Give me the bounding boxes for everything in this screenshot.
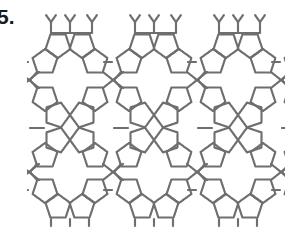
bond-line — [282, 172, 285, 180]
pentagon-ring — [154, 35, 179, 59]
pentagon-ring — [0, 180, 23, 204]
bond-line — [255, 15, 260, 22]
bond-line — [19, 72, 29, 80]
bond-line — [130, 15, 135, 22]
pentagon-ring — [70, 194, 95, 218]
bond-line — [65, 15, 70, 22]
pentagon-ring — [154, 128, 178, 153]
bond-line — [19, 172, 29, 180]
bond-line — [8, 15, 13, 22]
pentagon-ring — [154, 194, 179, 218]
bond-line — [30, 164, 37, 172]
pentagon-ring — [215, 128, 239, 153]
pentagon-ring — [167, 49, 192, 73]
pentagon-ring — [46, 35, 71, 59]
pentagon-ring — [131, 103, 155, 128]
bond-line — [30, 172, 37, 180]
bond-line — [154, 15, 159, 22]
pentagon-ring — [131, 128, 155, 153]
pentagon-ring — [201, 180, 226, 204]
pentagon-ring — [130, 35, 155, 59]
bond-line — [198, 80, 205, 88]
bond-line — [114, 164, 121, 172]
bond-line — [187, 72, 197, 80]
pentagon-ring — [0, 128, 10, 153]
pentagon-ring — [70, 35, 95, 59]
pentagon-ring — [117, 143, 142, 167]
pentagon-ring — [46, 194, 71, 218]
pentagon-ring — [33, 180, 58, 204]
pentagon-ring — [83, 88, 108, 112]
bond-line — [103, 80, 113, 88]
lattice-bonds — [0, 15, 285, 226]
bond-line — [214, 15, 219, 22]
bond-line — [198, 164, 205, 172]
pentagon-ring — [33, 49, 58, 73]
pentagon-ring — [83, 180, 108, 204]
bond-line — [114, 172, 121, 180]
pentagon-ring — [251, 88, 276, 112]
bond-line — [70, 15, 75, 22]
bond-line — [282, 72, 285, 80]
pentagon-ring — [251, 49, 276, 73]
pentagon-ring — [130, 194, 155, 218]
pentagon-ring — [47, 103, 71, 128]
pentagon-ring — [238, 103, 262, 128]
pentagon-ring — [83, 49, 108, 73]
bond-line — [135, 15, 140, 22]
bond-line — [233, 15, 238, 22]
pentagon-ring — [0, 194, 10, 218]
pentagon-ring — [117, 180, 142, 204]
bond-line — [19, 164, 29, 172]
pentagon-ring — [83, 143, 108, 167]
pentagon-ring — [117, 88, 142, 112]
bond-line — [92, 15, 97, 22]
pentagon-ring — [0, 35, 10, 59]
bond-line — [30, 72, 37, 80]
bond-line — [46, 15, 51, 22]
bond-line — [103, 164, 113, 172]
pentagon-ring — [117, 49, 142, 73]
pentagon-ring — [201, 143, 226, 167]
pentagon-ring — [154, 103, 178, 128]
bond-line — [187, 172, 197, 180]
bond-line — [260, 15, 265, 22]
bond-line — [187, 80, 197, 88]
bond-line — [3, 15, 8, 22]
pentagon-ring — [214, 194, 239, 218]
bond-line — [198, 72, 205, 80]
pentagon-lattice-diagram — [0, 0, 285, 228]
pentagon-ring — [0, 143, 23, 167]
pentagon-ring — [167, 143, 192, 167]
bond-line — [271, 164, 281, 172]
pentagon-ring — [238, 35, 263, 59]
pentagon-ring — [47, 128, 71, 153]
pentagon-ring — [215, 103, 239, 128]
bond-line — [271, 72, 281, 80]
pentagon-ring — [33, 88, 58, 112]
pentagon-ring — [201, 88, 226, 112]
pentagon-ring — [251, 143, 276, 167]
pentagon-ring — [0, 103, 10, 128]
bond-line — [176, 15, 181, 22]
bond-line — [171, 15, 176, 22]
pentagon-ring — [70, 128, 94, 153]
bond-line — [103, 72, 113, 80]
bond-line — [219, 15, 224, 22]
figure-canvas: 5. — [0, 0, 285, 228]
bond-line — [271, 80, 281, 88]
bond-line — [114, 72, 121, 80]
bond-line — [282, 80, 285, 88]
bond-line — [198, 172, 205, 180]
pentagon-ring — [33, 143, 58, 167]
pentagon-ring — [238, 194, 263, 218]
bond-line — [149, 15, 154, 22]
pentagon-ring — [167, 88, 192, 112]
bond-line — [87, 15, 92, 22]
pentagon-ring — [201, 49, 226, 73]
bond-line — [238, 15, 243, 22]
bond-line — [282, 164, 285, 172]
bond-line — [187, 164, 197, 172]
pentagon-ring — [70, 103, 94, 128]
bond-line — [51, 15, 56, 22]
